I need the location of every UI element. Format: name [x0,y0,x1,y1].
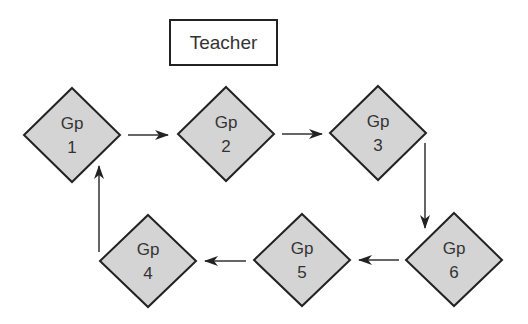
group-number: 5 [297,263,306,282]
group-node-3: Gp 3 [330,86,426,180]
rotation-diagram: Teacher Gp 1 Gp 2 Gp 3 Gp 4 Gp 5 Gp 6 [0,0,528,324]
group-number: 6 [449,263,458,282]
group-number: 3 [373,136,382,155]
group-number: 4 [143,264,152,283]
teacher-box: Teacher [170,20,277,65]
group-node-2: Gp 2 [178,87,274,181]
group-node-5: Gp 5 [254,214,350,306]
group-label: Gp [291,239,314,258]
group-label: Gp [61,114,84,133]
group-label: Gp [137,240,160,259]
group-node-6: Gp 6 [406,213,502,306]
group-node-1: Gp 1 [24,88,120,182]
group-number: 1 [67,138,76,157]
group-number: 2 [221,137,230,156]
group-label: Gp [367,112,390,131]
group-node-4: Gp 4 [100,215,196,307]
group-label: Gp [215,113,238,132]
teacher-label: Teacher [190,32,258,53]
group-label: Gp [443,239,466,258]
